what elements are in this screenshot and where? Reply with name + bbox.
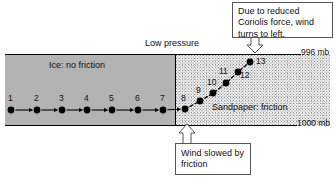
- trajectory-point-label: 7: [160, 93, 165, 103]
- trajectory-point-label: 13: [256, 56, 265, 66]
- trajectory-point: [84, 107, 91, 114]
- arrow-head: [79, 108, 82, 113]
- trajectory-point-label: 2: [34, 93, 39, 103]
- trajectory-point-label: 1: [8, 93, 13, 103]
- figure-canvas: Low pressure Ice: no friction Sandpaper:…: [0, 0, 336, 178]
- trajectory-point: [34, 107, 41, 114]
- trajectory-point: [182, 106, 189, 113]
- trajectory-point-label: 3: [59, 93, 64, 103]
- trajectory-point: [210, 90, 217, 97]
- arrow-head: [177, 107, 181, 112]
- trajectory-point: [8, 107, 15, 114]
- trajectory-point-label: 12: [240, 70, 249, 80]
- trajectory-point-label: 11: [219, 66, 228, 76]
- trajectory-point-label: 10: [207, 77, 216, 87]
- trajectory-point: [223, 80, 230, 87]
- trajectory-point-label: 4: [84, 93, 89, 103]
- trajectory-point: [197, 98, 204, 105]
- arrow-head: [104, 108, 107, 113]
- arrow-head: [130, 108, 133, 113]
- arrow-head: [29, 108, 32, 113]
- arrow-head: [54, 108, 57, 113]
- trajectory-points: [8, 59, 254, 114]
- trajectory-point: [109, 107, 116, 114]
- friction-callout-arrow: [179, 124, 195, 143]
- trajectory-point: [247, 59, 254, 66]
- trajectory-point-label: 8: [181, 93, 186, 103]
- trajectory-point-label: 9: [196, 85, 201, 95]
- trajectory-point-label: 6: [135, 93, 140, 103]
- trajectory-point: [160, 107, 167, 114]
- trajectory-point: [135, 107, 142, 114]
- trajectory-point-label: 5: [109, 93, 114, 103]
- arrow-head: [155, 108, 158, 113]
- callout-friction: Wind slowed by friction: [175, 143, 251, 175]
- callout-coriolis: Due to reduced Coriolis force, wind turn…: [232, 2, 333, 38]
- trajectory-point: [59, 107, 66, 114]
